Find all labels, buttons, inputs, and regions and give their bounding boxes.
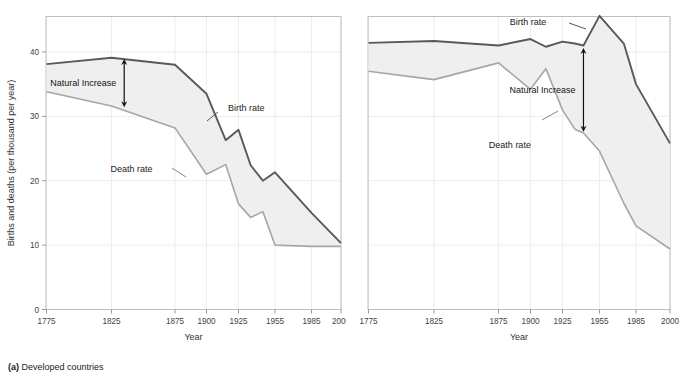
x-tick-label: 1900: [521, 317, 540, 326]
natural-increase-band: [369, 16, 671, 249]
death-rate-label: Death rate: [489, 140, 531, 150]
panel-b-developing-countries: 17751825187519001925195519852000YearNatu…: [346, 0, 692, 385]
x-axis-title: Year: [184, 332, 202, 342]
y-tick-label: 40: [30, 48, 40, 57]
natural-increase-label: Natural Increase: [50, 78, 116, 88]
x-axis-title: Year: [510, 332, 528, 342]
x-tick-label: 1925: [553, 317, 572, 326]
x-tick-label: 2000: [661, 317, 680, 326]
y-tick-label: 0: [34, 306, 39, 315]
demographic-transition-figure: 1775182518751900192519551985200001020304…: [0, 0, 692, 385]
x-tick-label: 1985: [627, 317, 646, 326]
caption-a-text: Developed countries: [22, 362, 104, 372]
x-tick-label: 1955: [590, 317, 609, 326]
birth-rate-label: Birth rate: [510, 17, 547, 27]
birth-rate-leader-line: [569, 23, 586, 29]
y-tick-label: 20: [30, 177, 40, 186]
x-tick-label: 1900: [197, 317, 216, 326]
death-rate-label: Death rate: [110, 164, 152, 174]
natural-increase-label: Natural Increase: [509, 85, 575, 95]
x-tick-label: 1875: [489, 317, 508, 326]
x-tick-label: 1775: [37, 317, 56, 326]
x-tick-label: 1955: [266, 317, 285, 326]
caption-a: (a) Developed countries: [8, 362, 104, 372]
x-tick-label: 1985: [302, 317, 321, 326]
death-rate-leader-line: [542, 111, 558, 120]
y-axis-title: Births and deaths (per thousand per year…: [6, 80, 16, 247]
y-tick-label: 30: [30, 112, 40, 121]
caption-a-marker: (a): [8, 362, 19, 372]
x-tick-label: 2000: [332, 317, 346, 326]
chart-a-svg: 1775182518751900192519551985200001020304…: [0, 0, 346, 360]
x-tick-label: 1775: [359, 317, 378, 326]
y-tick-label: 10: [30, 241, 40, 250]
x-tick-label: 1825: [425, 317, 444, 326]
death-rate-leader-line: [172, 168, 186, 177]
x-tick-label: 1925: [229, 317, 248, 326]
chart-b-svg: 17751825187519001925195519852000YearNatu…: [346, 0, 692, 360]
panel-a-developed-countries: 1775182518751900192519551985200001020304…: [0, 0, 346, 385]
x-tick-label: 1875: [166, 317, 185, 326]
birth-rate-label: Birth rate: [228, 103, 265, 113]
x-tick-label: 1825: [102, 317, 121, 326]
